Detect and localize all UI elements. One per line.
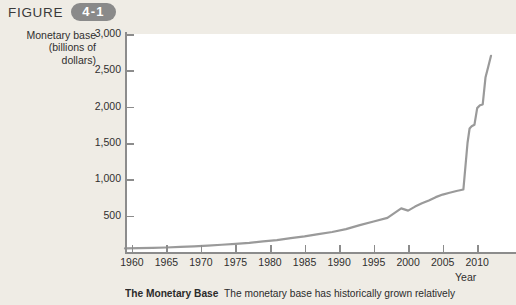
figure-label: FIGURE [8,5,63,20]
x-axis-line [125,252,516,254]
x-tick-mark [339,245,341,252]
x-tick-mark [408,245,410,252]
x-tick-label: 1975 [220,256,250,268]
series-line-monetary-base [0,24,516,282]
x-tick-label: 1990 [324,256,354,268]
x-tick-label: 1980 [255,256,285,268]
x-tick-mark [201,245,203,252]
chart: 5001,0001,5002,0002,5003,000 19601965197… [0,24,516,282]
x-tick-label: 1970 [186,256,216,268]
x-tick-label: 2000 [393,256,423,268]
y-tick-label: 2,000 [95,100,121,112]
y-tick-mark [127,70,134,72]
x-tick-label: 2010 [462,256,492,268]
x-tick-mark [374,245,376,252]
y-tick-label: 1,500 [95,136,121,148]
caption-text: The monetary base has historically grown… [224,288,455,299]
y-tick-mark [127,179,134,181]
x-tick-label: 1985 [290,256,320,268]
x-tick-label: 1995 [359,256,389,268]
figure-header: FIGURE 4-1 [8,1,116,23]
x-axis-title: Year [455,271,476,283]
caption-title: The Monetary Base [125,288,218,299]
y-tick-mark [127,216,134,218]
y-tick-mark [127,143,134,145]
y-tick-label: 1,000 [95,172,121,184]
y-tick-label: 500 [103,209,121,221]
x-tick-mark [235,245,237,252]
figure-caption: The Monetary Base The monetary base has … [125,288,516,300]
x-tick-label: 2005 [428,256,458,268]
x-tick-mark [270,245,272,252]
figure-number-badge: 4-1 [71,3,115,21]
x-tick-mark [443,245,445,252]
x-tick-mark [477,245,479,252]
y-tick-label: 3,000 [95,27,121,39]
y-tick-label: 2,500 [95,63,121,75]
y-tick-mark [127,107,134,109]
x-tick-mark [132,245,134,252]
x-tick-mark [305,245,307,252]
x-tick-label: 1960 [117,256,147,268]
figure-page: FIGURE 4-1 Monetary base (billions of do… [0,0,516,305]
x-tick-mark [166,245,168,252]
y-tick-mark [127,34,134,36]
x-tick-label: 1965 [151,256,181,268]
